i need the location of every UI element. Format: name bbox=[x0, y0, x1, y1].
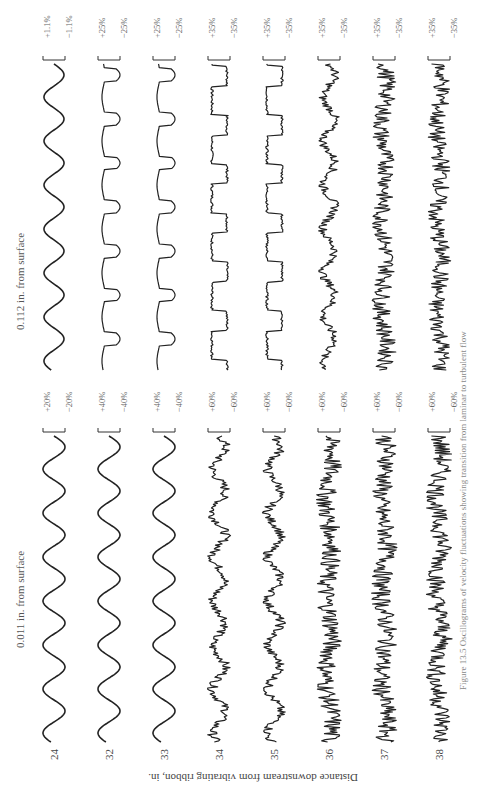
scale-minus-label: −40% bbox=[174, 392, 184, 412]
scale-plus-label: +60% bbox=[372, 392, 382, 412]
scale-minus-label: −60% bbox=[339, 392, 349, 412]
figure-caption: Figure 13.5 Oscillograms of velocity flu… bbox=[458, 331, 468, 690]
scale-minus-label: −35% bbox=[449, 18, 459, 38]
scale-plus-label: +20% bbox=[42, 392, 52, 412]
panel-title-lower: 0.011 in. from surface bbox=[14, 551, 26, 648]
station-label: 37 bbox=[378, 749, 390, 760]
station-label: 33 bbox=[158, 749, 170, 760]
axis-label: Distance downstream from vibrating ribbo… bbox=[148, 772, 358, 784]
station-label: 35 bbox=[268, 749, 280, 760]
scale-plus-label: +35% bbox=[262, 18, 272, 38]
scale-minus-label: −60% bbox=[229, 392, 239, 412]
scale-plus-label: +35% bbox=[317, 18, 327, 38]
scale-plus-label: +35% bbox=[207, 18, 217, 38]
station-label: 34 bbox=[213, 749, 225, 760]
station-label: 36 bbox=[323, 749, 335, 760]
scale-minus-label: −1.1% bbox=[64, 16, 74, 39]
scale-minus-label: −20% bbox=[64, 392, 74, 412]
scale-minus-label: −25% bbox=[119, 18, 129, 38]
scale-minus-label: −35% bbox=[339, 18, 349, 38]
station-label: 24 bbox=[48, 749, 60, 760]
panel-title-upper: 0.112 in. from surface bbox=[14, 233, 26, 330]
scale-minus-label: −60% bbox=[394, 392, 404, 412]
scale-minus-label: −35% bbox=[284, 18, 294, 38]
scale-plus-label: +25% bbox=[152, 18, 162, 38]
scale-plus-label: +1.1% bbox=[42, 16, 52, 39]
scale-plus-label: +40% bbox=[97, 392, 107, 412]
scale-plus-label: +35% bbox=[372, 18, 382, 38]
scale-minus-label: −60% bbox=[284, 392, 294, 412]
scale-minus-label: −35% bbox=[394, 18, 404, 38]
scale-minus-label: −40% bbox=[119, 392, 129, 412]
scale-minus-label: −35% bbox=[229, 18, 239, 38]
station-label: 32 bbox=[103, 749, 115, 760]
scale-plus-label: +40% bbox=[152, 392, 162, 412]
scale-plus-label: +35% bbox=[427, 18, 437, 38]
scale-plus-label: +60% bbox=[262, 392, 272, 412]
scale-plus-label: +60% bbox=[207, 392, 217, 412]
scale-plus-label: +60% bbox=[427, 392, 437, 412]
station-label: 38 bbox=[433, 749, 445, 760]
scale-minus-label: −25% bbox=[174, 18, 184, 38]
scale-plus-label: +25% bbox=[97, 18, 107, 38]
scale-plus-label: +60% bbox=[317, 392, 327, 412]
